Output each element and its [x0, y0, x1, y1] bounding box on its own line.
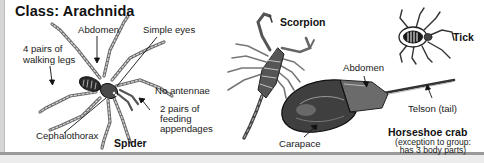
label-walking-legs-line1: 4 pairs of: [23, 44, 62, 55]
label-carapace: Carapace: [279, 139, 321, 150]
page-title: Class: Arachnida: [15, 3, 135, 19]
label-walking-legs-line2: walking legs: [23, 55, 75, 66]
label-feeding-line3: appendages: [160, 124, 213, 135]
spider-illustration: [40, 16, 172, 148]
label-simple-eyes: Simple eyes: [143, 25, 195, 36]
label-spider-abdomen: Abdomen: [78, 25, 119, 36]
label-telson: Telson (tail): [408, 104, 457, 115]
tick-illustration: [399, 8, 454, 64]
label-no-antennae: No antennae: [155, 86, 210, 97]
name-tick: Tick: [453, 31, 474, 43]
label-crab-abdomen: Abdomen: [343, 63, 384, 74]
crab-note-line2: has 3 body parts): [387, 146, 479, 156]
name-spider: Spider: [114, 137, 147, 149]
name-scorpion: Scorpion: [280, 16, 326, 28]
diagram-frame: Class: Arachnida Abdomen Simple eyes 4 p…: [0, 0, 484, 163]
label-cephalothorax: Cephalothorax: [36, 131, 98, 142]
